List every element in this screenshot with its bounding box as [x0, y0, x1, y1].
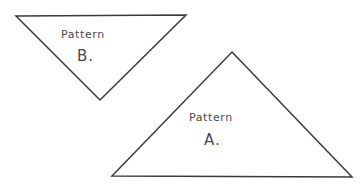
pattern-a-label-word: Pattern	[189, 112, 233, 124]
diagram-canvas: Pattern B. Pattern A.	[0, 0, 363, 187]
pattern-a-label-letter: A.	[204, 132, 221, 148]
pattern-b-label-word: Pattern	[61, 29, 105, 41]
triangles-figure	[0, 0, 363, 187]
pattern-b-label-letter: B.	[77, 48, 94, 64]
